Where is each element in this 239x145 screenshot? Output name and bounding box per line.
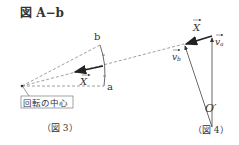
figure-4-caption: （図 4）: [193, 125, 229, 135]
vector-va-label: va: [215, 37, 224, 47]
center-point: [21, 85, 24, 88]
extended-dashed-line: [22, 44, 184, 86]
vector-x-arrow: [75, 66, 103, 72]
center-label: 回転の中心: [23, 98, 68, 108]
vector-x-label-fig4: X: [192, 22, 201, 33]
label-a: a: [107, 81, 113, 92]
vector-vb-label: vb: [172, 52, 181, 62]
figure-title: 図 A−b: [20, 6, 64, 20]
callout-line: [23, 87, 29, 96]
figure-3-caption: （図 3）: [42, 123, 78, 133]
vector-x-label: X: [79, 76, 88, 87]
label-b: b: [94, 31, 100, 42]
diagram-canvas: 図 A−b X a b 回転の中心 （図 3） X va vb O′ （図 4）: [0, 0, 239, 145]
radius-b-line: [22, 45, 100, 86]
origin-label: O′: [205, 102, 217, 115]
figure-4: X va vb O′ （図 4）: [172, 20, 229, 135]
vector-x-arrow-fig4: [186, 36, 212, 44]
figure-3: X a b 回転の中心 （図 3）: [21, 31, 184, 133]
